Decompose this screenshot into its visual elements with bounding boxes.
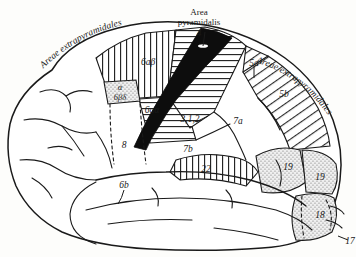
label-area-6abeta: 6aβ	[141, 57, 156, 67]
label-area-19a: 19	[283, 162, 293, 172]
label-area-7a: 7a	[233, 116, 243, 126]
label-area-6bdelta: 6βδ	[114, 92, 127, 102]
label-area-22: 22	[201, 164, 211, 174]
brain-map-svg: Area pyramidalis Areae extrapyramidales …	[0, 0, 356, 257]
label-area-8: 8	[122, 140, 127, 150]
label-area-6aalpha: 6aα	[145, 105, 161, 115]
label-area-5a: 5a	[249, 58, 259, 68]
label-area-17: 17	[345, 236, 356, 246]
label-area-pyramidalis-line2: pyramidalis	[178, 17, 221, 27]
label-area-7b: 7b	[183, 144, 193, 154]
label-area-5b: 5b	[279, 89, 289, 99]
label-area-4: 4	[197, 28, 202, 38]
label-area-alpha: α	[118, 82, 123, 92]
label-area-pyramidalis-line1: Area	[190, 7, 208, 17]
label-area-18: 18	[315, 210, 325, 220]
label-area-19b: 19	[315, 172, 325, 182]
cytoarchitectonic-brain-figure: Area pyramidalis Areae extrapyramidales …	[0, 0, 356, 257]
label-area-6b: 6b	[119, 180, 129, 190]
label-area-312: 3,1,2	[180, 114, 200, 124]
